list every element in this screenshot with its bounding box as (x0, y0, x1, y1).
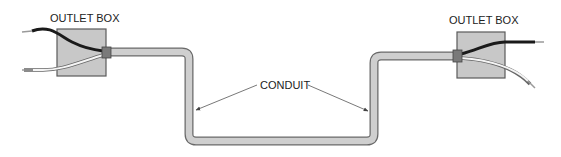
right-box-label: OUTLET BOX (449, 14, 519, 26)
right-box-connector (453, 50, 462, 62)
left-outlet-box: OUTLET BOX (22, 12, 120, 76)
conduit (108, 52, 457, 141)
left-box-label: OUTLET BOX (50, 12, 120, 24)
right-outlet-box: OUTLET BOX (449, 14, 544, 88)
right-box-body (457, 32, 505, 78)
left-hot-stripped-end (22, 31, 32, 32)
conduit-body (108, 52, 457, 141)
conduit-callout: CONDUIT (196, 79, 368, 111)
conduit-label: CONDUIT (260, 79, 310, 91)
left-box-connector (102, 47, 111, 58)
conduit-wiring-diagram: OUTLET BOX OUTLET BOX CONDUIT (0, 0, 561, 157)
conduit-leader-right (308, 85, 368, 111)
conduit-leader-left (196, 85, 257, 110)
conduit-outline (108, 52, 457, 141)
